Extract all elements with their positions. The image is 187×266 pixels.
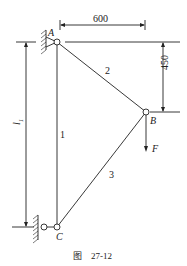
truss-diagram <box>0 0 187 266</box>
node-label-a: A <box>48 28 54 38</box>
force-arrowhead <box>144 146 148 152</box>
member-label-3: 3 <box>109 170 114 180</box>
node-label-b: B <box>150 116 156 126</box>
joint-b <box>143 109 149 115</box>
joint-a <box>54 39 60 45</box>
figure-caption: 图 27-12 <box>73 252 112 261</box>
member-3 <box>57 112 146 227</box>
dim-600: 600 <box>93 14 108 24</box>
member-label-2: 2 <box>105 66 110 76</box>
member-2 <box>57 42 146 112</box>
joint-c <box>54 224 60 230</box>
node-label-c: C <box>56 232 63 242</box>
force-label: F <box>152 144 158 154</box>
support-c-pin <box>41 224 47 230</box>
dim-450: 450 <box>160 55 170 70</box>
member-label-1: 1 <box>60 130 65 140</box>
dim-l1: l1 <box>12 119 25 125</box>
